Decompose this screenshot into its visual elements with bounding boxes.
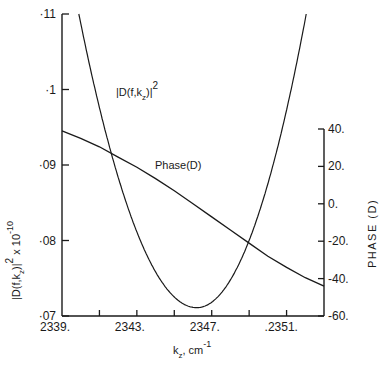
x-axis-title: kz, cm-1: [173, 339, 211, 360]
y2-tick-label: -40.: [328, 272, 349, 286]
y2-tick-label: 40.: [328, 122, 345, 136]
x-tick-label: 2347.: [190, 320, 220, 334]
x-ticks: 2339.2343.2347..2351.: [40, 310, 298, 334]
y-tick-label: ·07: [39, 309, 57, 323]
y-tick-label: ·09: [39, 158, 57, 172]
x-tick-label: 2343.: [115, 320, 145, 334]
y-tick-label: ·1: [45, 83, 56, 97]
y-tick-label: ·11: [40, 7, 57, 21]
x-tick-label: .2351.: [265, 320, 298, 334]
y2-tick-label: -60.: [328, 309, 349, 323]
right-y-ticks: -60.-40.-20.0.20.40.: [318, 122, 349, 323]
y2-tick-label: 0.: [328, 197, 338, 211]
phase-curve: [62, 131, 324, 286]
y2-tick-label: -20.: [328, 234, 349, 248]
chart: 2339.2343.2347..2351. ·07·08·09·1·11 -60…: [0, 0, 379, 370]
right-y-axis-title: PHASE (D): [366, 199, 378, 268]
magnitude-curve-label: |D(f,kz)|2: [116, 80, 159, 102]
phase-curve-label: Phase(D): [155, 159, 201, 171]
left-y-axis-title: |D(f,kz)|2 x 10-10: [4, 221, 26, 300]
left-y-ticks: ·07·08·09·1·11: [39, 7, 69, 323]
y-tick-label: ·08: [39, 234, 57, 248]
y2-tick-label: 20.: [328, 159, 345, 173]
